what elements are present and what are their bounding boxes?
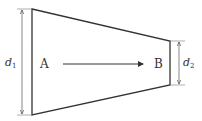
d2-subscript: 2 — [190, 62, 194, 70]
label-a: A — [40, 58, 49, 70]
label-d2: d2 — [183, 57, 195, 70]
label-b: B — [154, 58, 163, 70]
label-d1: d1 — [5, 57, 17, 70]
dimension-d1 — [17, 9, 32, 115]
diagram-canvas — [0, 0, 202, 121]
d1-subscript: 1 — [12, 62, 16, 70]
d1-symbol: d — [5, 56, 12, 69]
pipe-outline — [32, 9, 170, 115]
d2-symbol: d — [183, 56, 190, 69]
